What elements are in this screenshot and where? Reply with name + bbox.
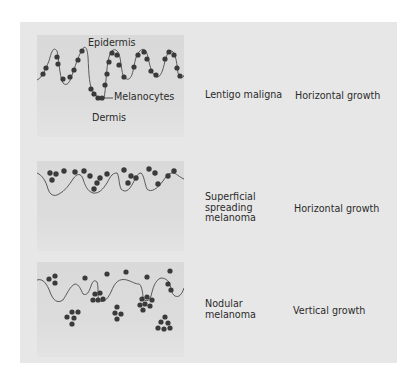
skin-diagram-box [37, 161, 184, 251]
skin-diagram-box [37, 262, 184, 357]
melanoma-type-label: Lentigo maligna [205, 90, 282, 101]
growth-pattern-label: Horizontal growth [294, 203, 379, 214]
superficial-spreading-diagram [37, 161, 184, 251]
melanoma-type-label: Nodular melanoma [205, 299, 256, 320]
melanoma-type-label: Superficial spreading melanoma [205, 192, 256, 224]
nodular-diagram [37, 262, 184, 357]
skin-diagram-box: Epidermis Melanocytes Dermis [37, 35, 184, 137]
growth-pattern-label: Horizontal growth [295, 90, 380, 101]
growth-pattern-label: Vertical growth [293, 305, 365, 316]
melanocyte-dots [46, 268, 173, 331]
dermis-label: Dermis [92, 112, 126, 123]
epidermis-label: Epidermis [88, 37, 136, 48]
row-superficial-spreading: Superficial spreading melanoma Horizonta… [20, 142, 397, 252]
figure-panel: Epidermis Melanocytes Dermis Lentigo mal… [20, 22, 397, 363]
row-lentigo-maligna: Epidermis Melanocytes Dermis Lentigo mal… [20, 22, 397, 142]
melanocytes-label: Melanocytes [114, 91, 174, 102]
row-nodular: Nodular melanoma Vertical growth [20, 252, 397, 363]
